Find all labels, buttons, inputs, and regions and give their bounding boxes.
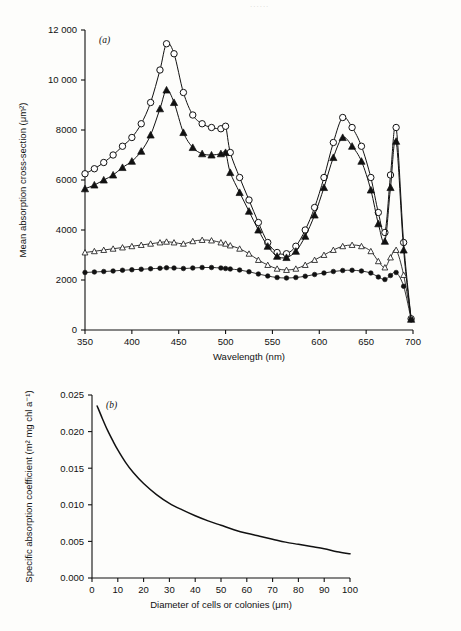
marker-filled-triangle — [119, 164, 126, 171]
marker-filled-circle — [247, 269, 252, 274]
x-tick-label: 70 — [267, 584, 278, 595]
marker-open-circle — [180, 89, 186, 95]
x-tick-label: 550 — [264, 336, 280, 347]
marker-filled-circle — [83, 270, 88, 275]
marker-filled-circle — [401, 284, 406, 289]
series-open-triangle — [82, 237, 414, 320]
marker-filled-triangle — [227, 169, 234, 176]
series-filled-triangle — [81, 86, 414, 322]
data-curve — [85, 43, 411, 319]
y-tick-label: 8000 — [56, 124, 77, 135]
marker-filled-circle — [200, 265, 205, 270]
marker-filled-triangle — [348, 143, 355, 150]
marker-filled-circle — [228, 267, 233, 272]
y-tick-label: 6000 — [56, 174, 77, 185]
marker-open-circle — [171, 51, 177, 57]
x-tick-label: 90 — [319, 584, 330, 595]
data-curve — [85, 267, 411, 319]
marker-open-circle — [101, 159, 107, 165]
marker-filled-circle — [120, 268, 125, 273]
x-tick-label: 20 — [138, 584, 149, 595]
marker-filled-circle — [130, 267, 135, 272]
marker-filled-triangle — [199, 150, 206, 157]
marker-open-circle — [147, 99, 153, 105]
marker-filled-circle — [256, 272, 261, 277]
marker-filled-circle — [383, 277, 388, 282]
marker-filled-circle — [340, 268, 345, 273]
marker-filled-triangle — [330, 154, 337, 161]
x-tick-label: 500 — [218, 336, 234, 347]
y-tick-label: 4000 — [56, 224, 77, 235]
figure-container: ...... 0200040006000800010 00012 0003504… — [0, 0, 461, 631]
marker-filled-circle — [181, 266, 186, 271]
marker-open-circle — [236, 174, 242, 180]
marker-filled-triangle — [245, 208, 252, 215]
data-curve — [85, 240, 411, 318]
marker-open-circle — [222, 123, 228, 129]
marker-filled-circle — [148, 266, 153, 271]
marker-filled-circle — [158, 266, 163, 271]
marker-filled-triangle — [156, 105, 163, 112]
x-tick-label: 650 — [358, 336, 374, 347]
marker-filled-triangle — [387, 184, 394, 191]
x-tick-label: 40 — [190, 584, 201, 595]
x-tick-label: 700 — [405, 336, 421, 347]
marker-filled-triangle — [236, 189, 243, 196]
y-axis-label: Specific absorption coefficient (m² mg c… — [23, 390, 34, 582]
x-tick-label: 50 — [216, 584, 227, 595]
marker-open-circle — [358, 143, 364, 149]
marker-open-circle — [190, 112, 196, 118]
panel-label: (a) — [99, 35, 110, 46]
marker-filled-circle — [409, 317, 414, 322]
marker-open-circle — [393, 124, 399, 130]
marker-filled-circle — [350, 268, 355, 273]
marker-open-triangle — [330, 247, 336, 252]
marker-open-circle — [119, 143, 125, 149]
marker-filled-triangle — [358, 158, 365, 165]
marker-open-circle — [129, 134, 135, 140]
y-tick-label: 12 000 — [48, 24, 77, 35]
x-axis-label: Diameter of cells or colonies (μm) — [150, 599, 292, 610]
marker-filled-triangle — [163, 86, 170, 93]
page-header-ghost: ...... — [250, 0, 450, 10]
marker-open-triangle — [388, 255, 394, 260]
y-tick-label: 10 000 — [48, 74, 77, 85]
marker-filled-circle — [223, 266, 228, 271]
chart-panel-b: 0.0000.0050.0100.0150.0200.0250102030405… — [23, 389, 358, 610]
marker-filled-circle — [369, 271, 374, 276]
x-tick-label: 80 — [293, 584, 304, 595]
marker-filled-circle — [359, 269, 364, 274]
marker-open-circle — [199, 121, 205, 127]
panel-label: (b) — [106, 400, 117, 411]
marker-open-circle — [163, 41, 169, 47]
marker-open-triangle — [302, 262, 308, 267]
marker-filled-circle — [322, 271, 327, 276]
data-curve — [97, 406, 350, 554]
marker-open-circle — [330, 139, 336, 145]
marker-filled-circle — [111, 269, 116, 274]
marker-filled-circle — [303, 274, 308, 279]
marker-filled-circle — [265, 274, 270, 279]
marker-filled-circle — [164, 265, 169, 270]
marker-filled-circle — [331, 269, 336, 274]
marker-filled-circle — [219, 266, 224, 271]
marker-filled-circle — [237, 268, 242, 273]
marker-open-circle — [208, 124, 214, 130]
y-tick-label: 0.005 — [60, 536, 84, 547]
y-tick-label: 0.025 — [60, 389, 84, 400]
marker-filled-circle — [172, 266, 177, 271]
marker-open-triangle — [321, 252, 327, 257]
x-tick-label: 400 — [124, 336, 140, 347]
marker-filled-circle — [388, 273, 393, 278]
marker-open-triangle — [246, 251, 252, 256]
x-tick-label: 30 — [164, 584, 175, 595]
marker-filled-circle — [312, 272, 317, 277]
x-tick-label: 350 — [77, 336, 93, 347]
y-tick-label: 2000 — [56, 274, 77, 285]
marker-open-circle — [82, 171, 88, 177]
marker-open-circle — [340, 114, 346, 120]
y-tick-label: 0.010 — [60, 499, 84, 510]
marker-open-circle — [138, 121, 144, 127]
x-tick-label: 10 — [113, 584, 124, 595]
marker-filled-triangle — [100, 176, 107, 183]
